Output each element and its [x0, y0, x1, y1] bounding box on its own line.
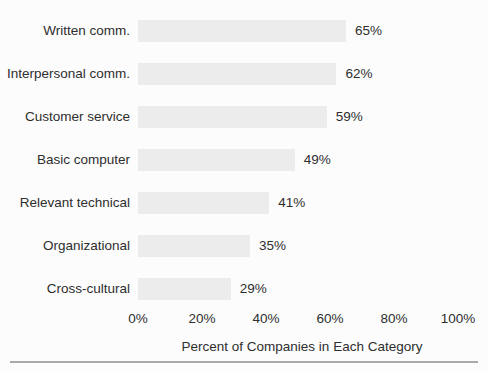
bar-fill	[138, 63, 336, 85]
chart-row: Relevant technical 41%	[0, 181, 488, 224]
bar-fill	[138, 106, 327, 128]
value-label: 49%	[304, 153, 331, 167]
bar-track: 35%	[138, 235, 458, 257]
bar-track: 41%	[138, 192, 458, 214]
bar-fill	[138, 149, 295, 171]
bar-track: 29%	[138, 278, 458, 300]
value-label: 65%	[355, 24, 382, 38]
chart-row: Customer service 59%	[0, 95, 488, 138]
chart-rows: Written comm. 65% Interpersonal comm. 62…	[0, 0, 488, 310]
bar-track: 62%	[138, 63, 458, 85]
category-label: Cross-cultural	[0, 282, 130, 296]
bar-fill	[138, 192, 269, 214]
category-label: Organizational	[0, 239, 130, 253]
x-axis-tick: 80%	[380, 311, 407, 327]
bar-track: 65%	[138, 20, 458, 42]
value-label: 35%	[259, 239, 286, 253]
x-axis-tick: 0%	[128, 311, 148, 327]
category-label: Customer service	[0, 110, 130, 124]
bar-fill	[138, 278, 231, 300]
x-axis-title: Percent of Companies in Each Category	[0, 338, 488, 355]
bar-track: 59%	[138, 106, 458, 128]
x-axis-tick: 40%	[252, 311, 279, 327]
chart-row: Organizational 35%	[0, 224, 488, 267]
bar-track: 49%	[138, 149, 458, 171]
x-axis-tick: 100%	[441, 311, 476, 327]
category-label: Relevant technical	[0, 196, 130, 210]
x-axis: 0% 20% 40% 60% 80% 100%	[138, 311, 458, 327]
chart-row: Interpersonal comm. 62%	[0, 52, 488, 95]
bar-chart-figure: Written comm. 65% Interpersonal comm. 62…	[0, 0, 488, 371]
chart-row: Cross-cultural 29%	[0, 267, 488, 310]
x-axis-tick: 60%	[316, 311, 343, 327]
chart-row: Written comm. 65%	[0, 9, 488, 52]
chart-row: Basic computer 49%	[0, 138, 488, 181]
value-label: 29%	[240, 282, 267, 296]
category-label: Interpersonal comm.	[0, 67, 130, 81]
bar-fill	[138, 20, 346, 42]
value-label: 59%	[336, 110, 363, 124]
x-axis-tick: 20%	[188, 311, 215, 327]
category-label: Written comm.	[0, 24, 130, 38]
value-label: 41%	[278, 196, 305, 210]
bar-fill	[138, 235, 250, 257]
bottom-divider	[10, 361, 478, 363]
value-label: 62%	[345, 67, 372, 81]
category-label: Basic computer	[0, 153, 130, 167]
